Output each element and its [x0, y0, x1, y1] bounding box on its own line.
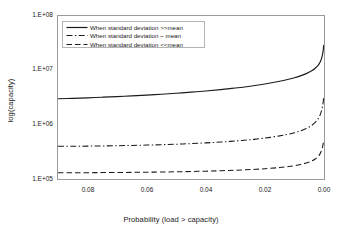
- series-line-dashdot: [58, 98, 324, 147]
- x-tick-label: 0.00: [304, 186, 342, 193]
- legend-swatch-dashed: [66, 41, 88, 48]
- x-tick-label: 0.06: [127, 186, 167, 193]
- legend-item: When standard deviation >>mean: [66, 24, 201, 32]
- y-axis-title: log(capacity): [6, 53, 15, 149]
- legend-swatch-solid: [66, 24, 88, 31]
- y-tick-label: 1.E+05: [19, 175, 53, 182]
- legend-label: When standard deviation ~ mean: [90, 32, 181, 39]
- legend-label: When standard deviation <<mean: [90, 41, 183, 48]
- legend-item: When standard deviation <<mean: [66, 40, 201, 48]
- series-line-dashed: [58, 140, 324, 173]
- chart-legend: When standard deviation >>mean When stan…: [62, 21, 205, 48]
- y-tick-label: 1.E+07: [19, 65, 53, 72]
- x-tick-label: 0.02: [245, 186, 285, 193]
- x-axis-title: Probability (load > capacity): [0, 215, 342, 224]
- legend-label: When standard deviation >>mean: [90, 24, 183, 31]
- chart-figure: 1.E+08 1.E+07 1.E+06 1.E+05 log(capacity…: [0, 0, 342, 230]
- legend-swatch-dashdot: [66, 32, 88, 39]
- x-tick-label: 0.04: [186, 186, 226, 193]
- x-tick-label: 0.08: [68, 186, 108, 193]
- legend-item: When standard deviation ~ mean: [66, 32, 201, 40]
- series-line-solid: [58, 45, 324, 99]
- y-tick-label: 1.E+06: [19, 120, 53, 127]
- y-tick-label: 1.E+08: [19, 11, 53, 18]
